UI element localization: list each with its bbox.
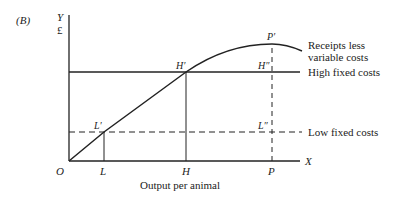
y-axis-unit: £ — [57, 24, 63, 36]
origin-label: O — [56, 165, 64, 177]
low-fixed-costs-label: Low fixed costs — [308, 126, 378, 138]
point-l-prime: L′ — [93, 120, 103, 131]
x-tick-h: H — [181, 165, 191, 177]
point-h-prime: H′ — [175, 60, 186, 71]
y-axis-label: Y — [57, 11, 65, 23]
receipts-label-line1: Receipts less — [308, 39, 365, 51]
x-tick-p: P — [267, 165, 275, 177]
high-fixed-costs-label: High fixed costs — [308, 66, 380, 78]
panel-label: (B) — [16, 14, 30, 27]
point-p-prime: P′ — [266, 31, 276, 42]
receipts-label-line2: variable costs — [308, 51, 368, 63]
point-l-double-prime: L″ — [257, 120, 269, 131]
x-axis-label: X — [304, 155, 313, 167]
point-h-double-prime: H″ — [257, 60, 270, 71]
economics-diagram: (B) Y £ O L H P X Output per animal L′ H… — [0, 0, 399, 201]
x-axis-title: Output per animal — [140, 179, 220, 191]
x-tick-l: L — [99, 165, 106, 177]
